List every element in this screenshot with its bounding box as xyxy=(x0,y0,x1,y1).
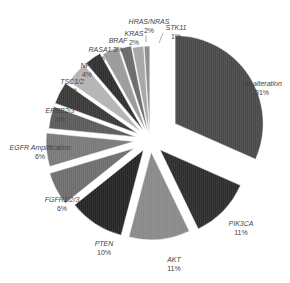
label-percent: 31% xyxy=(255,89,269,96)
label-name: RASA1 xyxy=(89,46,112,53)
label-name: BRAF xyxy=(109,37,128,44)
leader-line-stk11 xyxy=(159,33,163,43)
slice-label-fgfr: FGFR1/2/3 6% xyxy=(45,196,80,212)
slice-label-kras: KRAS 2% xyxy=(124,30,143,46)
label-percent: 2% xyxy=(144,27,154,34)
pie-slices xyxy=(46,36,263,240)
label-name: AKT xyxy=(166,256,181,263)
label-percent: 3% xyxy=(95,55,105,62)
label-percent: 10% xyxy=(97,249,111,256)
label-name: HRAS/NRAS xyxy=(129,18,170,25)
label-name: PIK3CA xyxy=(229,220,254,227)
label-name: No alteration xyxy=(242,80,282,87)
label-percent: 6% xyxy=(57,205,67,212)
label-percent: 1% xyxy=(171,33,181,40)
slice-label-pik3ca: PIK3CA 11% xyxy=(229,220,254,236)
label-percent: 11% xyxy=(167,265,181,272)
slice-texture xyxy=(175,36,263,160)
label-percent: 4% xyxy=(67,87,77,94)
label-name: TSC1/2 xyxy=(60,78,84,85)
slice-label-pten: PTEN 10% xyxy=(95,240,115,256)
label-percent: 3% xyxy=(113,46,123,53)
label-percent: 4% xyxy=(82,71,92,78)
label-name: ERBB2/3 xyxy=(46,107,75,114)
label-percent: 4% xyxy=(55,116,65,123)
label-name: EGFR Amplification xyxy=(10,144,71,152)
label-name: KRAS xyxy=(124,30,143,37)
label-percent: 11% xyxy=(234,229,248,236)
exploded-pie-chart: No alteration 31% PIK3CA 11% AKT 11% PTE… xyxy=(0,0,290,283)
label-percent: 2% xyxy=(129,39,139,46)
label-percent: 6% xyxy=(35,153,45,160)
label-name: STK11 xyxy=(166,24,187,31)
label-name: FGFR1/2/3 xyxy=(45,196,80,203)
slice-label-akt: AKT 11% xyxy=(166,256,181,272)
label-name: PTEN xyxy=(95,240,115,247)
label-name: NF1 xyxy=(80,62,93,69)
